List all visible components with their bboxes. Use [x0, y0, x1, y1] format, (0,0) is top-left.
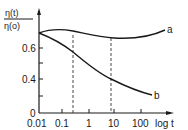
curve-b-label: b — [154, 90, 160, 101]
x-tick-label-0.1: 0.1 — [55, 118, 69, 129]
x-axis-label: log t — [155, 118, 174, 129]
x-axis-arrow-icon — [166, 111, 174, 115]
curve-a — [39, 30, 165, 39]
x-tick-label-10: 10 — [108, 118, 120, 129]
curve-b — [39, 33, 152, 95]
line-chart: η(t) η(o) 0 0.4 0.6 0.01 0.1 1 10 100 lo… — [0, 0, 188, 130]
y-tick-label-0.6: 0.6 — [22, 43, 36, 54]
y-axis-arrow-icon — [37, 8, 41, 15]
x-tick-label-1: 1 — [86, 118, 92, 129]
curve-a-label: a — [167, 24, 173, 35]
y-axis-label-denominator: η(o) — [4, 21, 20, 31]
x-tick-label-100: 100 — [132, 118, 149, 129]
x-tick-label-0.01: 0.01 — [27, 118, 47, 129]
y-axis-label-numerator: η(t) — [5, 8, 19, 18]
y-tick-label-0.4: 0.4 — [22, 74, 36, 85]
